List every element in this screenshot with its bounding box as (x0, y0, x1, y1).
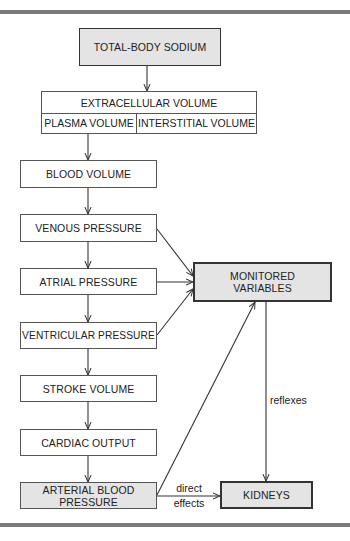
node-label-line2: VARIABLES (233, 282, 291, 294)
node-label: VENOUS PRESSURE (35, 222, 142, 234)
node-label: KIDNEYS (243, 489, 290, 501)
node-label-line2: PRESSURE (59, 496, 118, 508)
node-label: CARDIAC OUTPUT (41, 437, 136, 449)
node-interstitial-volume: INTERSTITIAL VOLUME (137, 113, 256, 133)
node-plasma-volume: PLASMA VOLUME (42, 113, 137, 133)
edge-label-reflexes: reflexes (270, 394, 307, 406)
node-monitored-variables: MONITORED VARIABLES (193, 262, 332, 302)
edge-label-effects: effects (170, 497, 208, 509)
node-label: EXTRACELLULAR VOLUME (81, 97, 218, 109)
node-label-line1: MONITORED (230, 270, 295, 282)
node-cardiac-output: CARDIAC OUTPUT (20, 429, 157, 456)
node-label: VENTRICULAR PRESSURE (22, 330, 155, 342)
node-label: ATRIAL PRESSURE (40, 276, 138, 288)
node-total-body-sodium: TOTAL-BODY SODIUM (79, 28, 221, 66)
extracellular-header: EXTRACELLULAR VOLUME (42, 92, 256, 114)
node-label: TOTAL-BODY SODIUM (94, 41, 207, 53)
node-kidneys: KIDNEYS (220, 481, 313, 509)
edge-label-direct: direct (170, 482, 208, 494)
node-label: STROKE VOLUME (43, 383, 135, 395)
node-label: BLOOD VOLUME (46, 168, 131, 180)
node-label: PLASMA VOLUME (44, 117, 133, 129)
node-label: INTERSTITIAL VOLUME (138, 117, 255, 129)
node-blood-volume: BLOOD VOLUME (20, 160, 157, 188)
node-label-line1: ARTERIAL BLOOD (43, 484, 135, 496)
node-atrial-pressure: ATRIAL PRESSURE (20, 268, 157, 295)
node-venous-pressure: VENOUS PRESSURE (20, 214, 157, 242)
node-arterial-blood-pressure: ARTERIAL BLOOD PRESSURE (20, 482, 157, 509)
node-stroke-volume: STROKE VOLUME (20, 375, 157, 402)
node-extracellular-volume: EXTRACELLULAR VOLUME PLASMA VOLUME INTER… (41, 91, 257, 134)
node-ventricular-pressure: VENTRICULAR PRESSURE (20, 322, 157, 349)
